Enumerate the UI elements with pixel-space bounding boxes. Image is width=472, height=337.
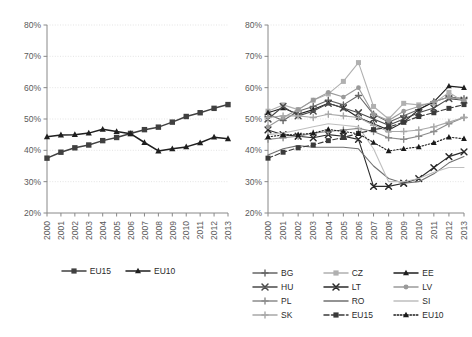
line-chart-left: 20%30%40%50%60%70%80%2000200120022003200… bbox=[0, 0, 236, 265]
y-axis-tick-label: 30% bbox=[245, 177, 262, 187]
legend-item-EE[interactable]: EE bbox=[393, 268, 462, 278]
y-axis-tick-label: 80% bbox=[24, 20, 41, 30]
x-axis-tick-label: 2006 bbox=[126, 221, 136, 240]
legend-swatch-RO bbox=[323, 296, 349, 306]
x-axis-tick-label: 2003 bbox=[84, 221, 94, 240]
chart-panel-right: 20%30%40%50%60%70%80%2000200120022003200… bbox=[236, 0, 472, 337]
legend-label: EU10 bbox=[422, 310, 443, 320]
x-axis-tick-label: 2005 bbox=[339, 221, 349, 240]
legend-swatch-SI bbox=[393, 296, 419, 306]
x-axis-tick-label: 2009 bbox=[399, 221, 409, 240]
legend-swatch-BG bbox=[252, 268, 278, 278]
legend-item-CZ[interactable]: CZ bbox=[323, 268, 392, 278]
y-axis-tick-label: 20% bbox=[24, 208, 41, 218]
x-axis-tick-label: 2006 bbox=[354, 221, 364, 240]
y-axis-tick-label: 80% bbox=[245, 20, 262, 30]
legend-swatch-EU15 bbox=[61, 266, 87, 276]
legend-label: HU bbox=[281, 282, 293, 292]
legend-label: EU15 bbox=[352, 310, 373, 320]
y-axis-tick-label: 60% bbox=[245, 83, 262, 93]
legend-swatch-LV bbox=[393, 282, 419, 292]
legend-right: BGCZEEHULTLVPLROSISKEU15EU10 bbox=[236, 268, 472, 320]
legend-swatch-SK bbox=[252, 310, 278, 320]
legend-item-EU10[interactable]: EU10 bbox=[393, 310, 462, 320]
legend-label: LT bbox=[352, 282, 361, 292]
legend-swatch-EU15 bbox=[323, 310, 349, 320]
x-axis-tick-label: 2009 bbox=[168, 221, 178, 240]
legend-item-EU15[interactable]: EU15 bbox=[323, 310, 392, 320]
x-axis-tick-label: 2011 bbox=[195, 221, 205, 240]
y-axis-tick-label: 60% bbox=[24, 83, 41, 93]
legend-label: SI bbox=[422, 296, 430, 306]
x-axis-tick-label: 2001 bbox=[56, 221, 66, 240]
x-axis-tick-label: 2004 bbox=[98, 221, 108, 240]
plot-area-right: 20%30%40%50%60%70%80%2000200120022003200… bbox=[236, 0, 472, 265]
legend-swatch-EU10 bbox=[125, 266, 151, 276]
legend-label: BG bbox=[281, 268, 293, 278]
y-axis-tick-label: 40% bbox=[245, 145, 262, 155]
legend-item-BG[interactable]: BG bbox=[252, 268, 321, 278]
y-axis-tick-label: 50% bbox=[245, 114, 262, 124]
plot-area-left: 20%30%40%50%60%70%80%2000200120022003200… bbox=[0, 0, 236, 265]
legend-label: EU10 bbox=[154, 266, 175, 276]
x-axis-tick-label: 2007 bbox=[140, 221, 150, 240]
legend-swatch-LT bbox=[323, 282, 349, 292]
x-axis-tick-label: 2010 bbox=[414, 221, 424, 240]
x-axis-tick-label: 2013 bbox=[223, 221, 233, 240]
legend-item-PL[interactable]: PL bbox=[252, 296, 321, 306]
x-axis-tick-label: 2002 bbox=[293, 221, 303, 240]
x-axis-tick-label: 2012 bbox=[444, 221, 454, 240]
legend-label: EE bbox=[422, 268, 433, 278]
legend-swatch-EU10 bbox=[393, 310, 419, 320]
legend-label: CZ bbox=[352, 268, 363, 278]
x-axis-tick-label: 2004 bbox=[324, 221, 334, 240]
legend-item-EU15[interactable]: EU15 bbox=[61, 266, 111, 276]
figure-container: 20%30%40%50%60%70%80%2000200120022003200… bbox=[0, 0, 472, 337]
legend-item-RO[interactable]: RO bbox=[323, 296, 392, 306]
series-EE bbox=[265, 83, 467, 132]
y-axis-tick-label: 70% bbox=[24, 51, 41, 61]
y-axis-tick-label: 50% bbox=[24, 114, 41, 124]
legend-swatch-HU bbox=[252, 282, 278, 292]
x-axis-tick-label: 2003 bbox=[308, 221, 318, 240]
x-axis-tick-label: 2000 bbox=[263, 221, 273, 240]
x-axis-tick-label: 2008 bbox=[384, 221, 394, 240]
x-axis-tick-label: 2007 bbox=[369, 221, 379, 240]
x-axis-tick-label: 2013 bbox=[459, 221, 469, 240]
y-axis-tick-label: 30% bbox=[24, 177, 41, 187]
legend-left: EU15EU10 bbox=[0, 266, 236, 276]
line-chart-right: 20%30%40%50%60%70%80%2000200120022003200… bbox=[236, 0, 472, 265]
x-axis-tick-label: 2012 bbox=[209, 221, 219, 240]
y-axis-tick-label: 40% bbox=[24, 145, 41, 155]
y-axis-tick-label: 70% bbox=[245, 51, 262, 61]
legend-label: RO bbox=[352, 296, 365, 306]
legend-label: EU15 bbox=[90, 266, 111, 276]
legend-swatch-CZ bbox=[323, 268, 349, 278]
legend-item-EU10[interactable]: EU10 bbox=[125, 266, 175, 276]
x-axis-tick-label: 2002 bbox=[70, 221, 80, 240]
x-axis-tick-label: 2011 bbox=[429, 221, 439, 240]
legend-item-LV[interactable]: LV bbox=[393, 282, 462, 292]
legend-swatch-EE bbox=[393, 268, 419, 278]
chart-panel-left: 20%30%40%50%60%70%80%2000200120022003200… bbox=[0, 0, 236, 337]
legend-swatch-PL bbox=[252, 296, 278, 306]
x-axis-tick-label: 2005 bbox=[112, 221, 122, 240]
x-axis-tick-label: 2001 bbox=[278, 221, 288, 240]
legend-label: LV bbox=[422, 282, 432, 292]
legend-item-HU[interactable]: HU bbox=[252, 282, 321, 292]
series-EU15 bbox=[44, 102, 230, 161]
legend-label: PL bbox=[281, 296, 291, 306]
y-axis-tick-label: 20% bbox=[245, 208, 262, 218]
legend-item-SK[interactable]: SK bbox=[252, 310, 321, 320]
legend-label: SK bbox=[281, 310, 292, 320]
legend-item-LT[interactable]: LT bbox=[323, 282, 392, 292]
x-axis-tick-label: 2010 bbox=[181, 221, 191, 240]
x-axis-tick-label: 2008 bbox=[154, 221, 164, 240]
x-axis-tick-label: 2000 bbox=[42, 221, 52, 240]
legend-item-SI[interactable]: SI bbox=[393, 296, 462, 306]
